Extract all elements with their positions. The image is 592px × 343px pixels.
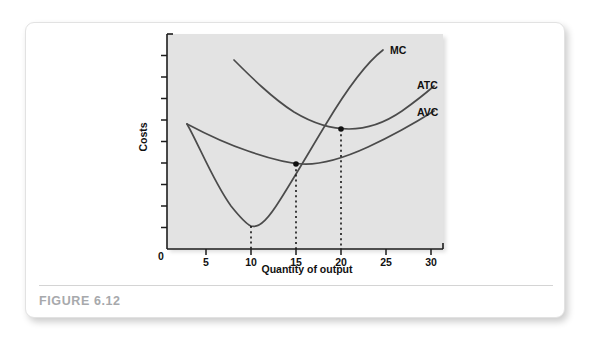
axis-origin-label: 0 (151, 250, 171, 262)
mc-curve-label: MC (390, 44, 406, 56)
chart-plot-svg (26, 23, 566, 273)
figure-card: 5 10 15 20 25 30 0 Quantity of output Co… (25, 22, 565, 318)
chart-axes (167, 34, 443, 249)
mc-atc-intersection-dot (338, 126, 344, 132)
x-axis-title: Quantity of output (207, 263, 407, 275)
mc-avc-intersection-dot (293, 161, 299, 167)
avc-curve-label: AVC (417, 106, 438, 118)
atc-curve-label: ATC (417, 79, 438, 91)
avc-curve (187, 111, 434, 164)
x-tick-label-30: 30 (419, 256, 443, 268)
atc-curve (234, 60, 434, 129)
figure-caption: FIGURE 6.12 (39, 294, 121, 308)
caption-divider (39, 285, 553, 286)
y-axis-ticks (161, 56, 167, 228)
y-axis-title: Costs (137, 114, 149, 160)
chart-area: 5 10 15 20 25 30 0 Quantity of output Co… (26, 23, 566, 273)
x-axis-ticks (206, 249, 431, 255)
